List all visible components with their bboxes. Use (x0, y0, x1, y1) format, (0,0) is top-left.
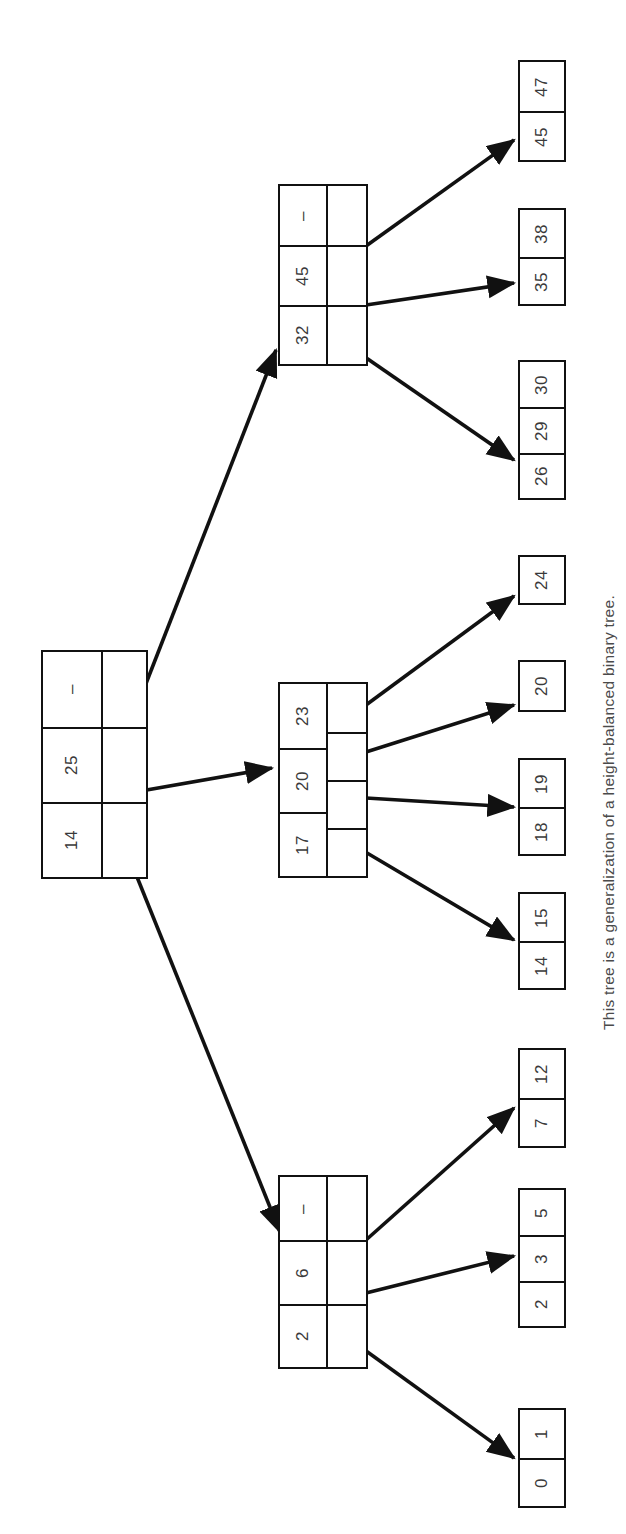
leaf-value-label: 19 (532, 774, 552, 794)
tree-leaf-45-47[interactable]: 47 45 (518, 60, 566, 162)
node-pointer-cell[interactable] (103, 652, 146, 727)
edge-middle-to-leaf-18-19 (366, 798, 514, 807)
edge-middle-to-leaf-24 (366, 596, 514, 705)
edge-upper-to-leaf-35-38 (366, 283, 514, 305)
leaf-value-cell: 45 (520, 111, 564, 160)
node-key-cell: 14 (43, 802, 101, 877)
leaf-value-cell: 7 (520, 1098, 564, 1146)
leaf-value-cell: 0 (520, 1458, 564, 1506)
edge-lower-to-leaf-0-1 (362, 1348, 514, 1458)
leaf-value-label: 3 (532, 1254, 552, 1264)
node-key-cell: 2 (280, 1304, 326, 1367)
leaf-value-cell: 30 (520, 362, 564, 407)
node-key-cell: – (280, 186, 326, 245)
leaf-value-label: 14 (532, 956, 552, 976)
leaf-value-label: 20 (532, 676, 552, 696)
key-label: 32 (293, 325, 313, 345)
node-pointer-cell[interactable] (103, 802, 146, 877)
node-key-cell: 17 (280, 812, 326, 876)
leaf-value-cell: 38 (520, 210, 564, 257)
node-pointer-cell[interactable] (328, 780, 366, 828)
node-pointer-cell[interactable] (328, 1177, 366, 1240)
leaf-value-label: 2 (532, 1299, 552, 1309)
edge-middle-to-leaf-20 (366, 705, 514, 752)
leaf-value-cell: 19 (520, 760, 564, 807)
node-key-cell: 32 (280, 305, 326, 364)
tree-node-internal-upper[interactable]: – 45 32 (278, 184, 368, 366)
leaf-value-label: 24 (532, 570, 552, 590)
key-label: 14 (62, 831, 82, 851)
node-key-cell: – (280, 1177, 326, 1240)
tree-leaf-35-38[interactable]: 38 35 (518, 208, 566, 306)
key-label: – (293, 211, 313, 221)
leaf-value-cell: 3 (520, 1235, 564, 1280)
key-label: 23 (293, 706, 313, 726)
node-key-cell: 45 (280, 245, 326, 304)
leaf-value-cell: 14 (520, 941, 564, 988)
leaf-value-label: 30 (532, 375, 552, 395)
edge-root-to-upper (131, 350, 276, 722)
key-label: 6 (293, 1268, 313, 1278)
leaf-value-label: 1 (532, 1429, 552, 1439)
leaf-value-label: 7 (532, 1118, 552, 1128)
leaf-value-cell: 47 (520, 62, 564, 111)
tree-node-internal-lower[interactable]: – 6 2 (278, 1175, 368, 1369)
node-key-cell: 25 (43, 727, 101, 802)
leaf-value-label: 45 (532, 127, 552, 147)
leaf-value-label: 15 (532, 908, 552, 928)
edge-lower-to-leaf-7-12 (366, 1108, 514, 1240)
leaf-value-cell: 5 (520, 1190, 564, 1235)
node-pointer-cell[interactable] (328, 186, 366, 245)
leaf-value-cell: 29 (520, 407, 564, 452)
node-key-cell: 20 (280, 748, 326, 812)
tree-leaf-24[interactable]: 24 (518, 555, 566, 605)
node-key-cell: 23 (280, 684, 326, 748)
node-pointer-cell[interactable] (328, 245, 366, 304)
edge-root-to-lower (131, 862, 280, 1232)
tree-leaf-18-19[interactable]: 19 18 (518, 758, 566, 856)
tree-leaf-0-1[interactable]: 1 0 (518, 1408, 566, 1508)
key-label: – (62, 685, 82, 695)
edge-middle-to-leaf-14-15 (362, 850, 514, 940)
leaf-value-label: 18 (532, 822, 552, 842)
tree-node-root[interactable]: – 25 14 (41, 650, 148, 879)
leaf-value-label: 35 (532, 272, 552, 292)
leaf-value-label: 47 (532, 77, 552, 97)
key-label: 2 (293, 1331, 313, 1341)
tree-leaf-2-3-5[interactable]: 5 3 2 (518, 1188, 566, 1328)
leaf-value-label: 5 (532, 1208, 552, 1218)
tree-node-internal-middle[interactable]: 23 20 17 (278, 682, 368, 878)
key-label: 25 (62, 756, 82, 776)
node-pointer-cell[interactable] (328, 1304, 366, 1367)
key-label: – (293, 1204, 313, 1214)
node-key-cell: – (43, 652, 101, 727)
node-pointer-cell[interactable] (328, 305, 366, 364)
node-pointer-cell[interactable] (103, 727, 146, 802)
edge-lower-to-leaf-2-3-5 (366, 1256, 514, 1293)
leaf-value-label: 29 (532, 421, 552, 441)
leaf-value-cell: 20 (520, 662, 564, 710)
leaf-value-cell: 24 (520, 557, 564, 603)
tree-leaf-26-29-30[interactable]: 30 29 26 (518, 360, 566, 500)
leaf-value-label: 26 (532, 466, 552, 486)
edge-upper-to-leaf-45-47 (366, 140, 514, 246)
leaf-value-label: 12 (532, 1064, 552, 1084)
node-pointer-cell[interactable] (328, 732, 366, 780)
node-key-cell: 6 (280, 1240, 326, 1303)
tree-leaf-14-15[interactable]: 15 14 (518, 892, 566, 990)
leaf-value-cell: 2 (520, 1281, 564, 1326)
leaf-value-cell: 15 (520, 894, 564, 941)
tree-leaf-7-12[interactable]: 12 7 (518, 1048, 566, 1148)
node-pointer-cell[interactable] (328, 1240, 366, 1303)
leaf-value-cell: 12 (520, 1050, 564, 1098)
leaf-value-cell: 1 (520, 1410, 564, 1458)
figure-caption: This tree is a generalization of a heigh… (600, 595, 618, 1030)
leaf-value-label: 0 (532, 1478, 552, 1488)
edge-upper-to-leaf-26-29-30 (362, 355, 514, 460)
tree-leaf-20[interactable]: 20 (518, 660, 566, 712)
key-label: 20 (293, 771, 313, 791)
leaf-value-cell: 26 (520, 453, 564, 498)
leaf-value-label: 38 (532, 224, 552, 244)
node-pointer-cell[interactable] (328, 684, 366, 732)
node-pointer-cell[interactable] (328, 828, 366, 876)
